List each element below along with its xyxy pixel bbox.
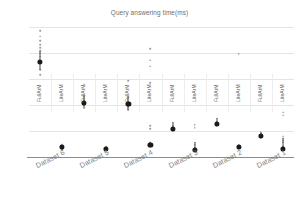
series-label-fullarm: FullArM [126,84,131,102]
series-cell-separator [73,74,74,112]
data-point [150,125,152,127]
data-point [39,30,41,32]
data-point [194,124,196,126]
series-label-fullarm: FullArM [82,84,87,102]
series-label-fullarm: FullArM [37,84,42,102]
series-label-litearm: LiteArM [280,84,285,102]
series-label-fullarm: FullArM [214,84,219,102]
series-label-fullarm: FullArM [258,84,263,102]
mean-marker [126,102,131,107]
data-point [150,128,152,130]
data-point [282,115,284,117]
data-point [150,82,152,84]
series-label-litearm: LiteArM [192,84,197,102]
series-cell-separator [228,74,229,112]
data-point [39,40,41,42]
plot-area: 05001000150020002500FullArMLiteArMFullAr… [29,28,294,158]
series-label-fullarm: FullArM [170,84,175,102]
mean-marker [214,122,219,127]
series-cell-separator [117,74,118,112]
series-cell-separator [272,74,273,112]
mean-marker [148,142,153,147]
data-point [128,80,130,82]
series-label-litearm: LiteArM [104,84,109,102]
series-cell-separator [95,74,96,112]
gridline-2500 [29,27,294,28]
series-cell-separator [51,74,52,112]
data-point [194,127,196,129]
data-point [39,74,41,76]
x-axis-line [27,157,294,158]
series-cell-separator [184,74,185,112]
series-cell-separator [206,74,207,112]
series-cell-separator [250,74,251,112]
data-point [282,111,284,113]
chart-title: Query answering time(ms) [0,9,299,16]
chart-root: Query answering time(ms) 050010001500200… [0,0,299,206]
gridline-2000 [29,53,294,54]
series-label-litearm: LiteArM [236,84,241,102]
data-point [39,36,41,38]
data-point [150,59,152,61]
data-point [150,48,152,50]
gridline-500 [29,131,294,132]
data-point [238,53,240,55]
mean-marker [37,59,42,64]
series-cell-separator [139,74,140,112]
series-label-litearm: LiteArM [60,84,65,102]
mean-marker [258,134,263,139]
series-cell-separator [162,74,163,112]
data-point [150,66,152,68]
series-label-litearm: LiteArM [148,84,153,102]
data-point [39,44,41,46]
data-point [39,47,41,49]
